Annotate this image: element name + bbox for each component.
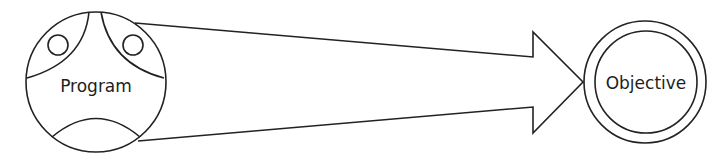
objective-label: Objective <box>606 73 687 93</box>
tapered-arrow <box>135 23 583 141</box>
program-small-circle-right <box>123 35 143 55</box>
diagram-canvas: Program Objective <box>0 0 726 164</box>
program-small-circle-left <box>48 35 68 55</box>
program-lobe-bottom <box>52 119 140 138</box>
program-label: Program <box>60 76 132 96</box>
